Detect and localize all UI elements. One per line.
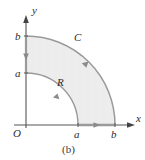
region-label-R: R <box>56 76 64 88</box>
y-axis-label: y <box>31 4 37 16</box>
origin-label: O <box>13 127 21 139</box>
figure-container: y x O b a a b R C (b) <box>0 0 145 160</box>
quarter-annulus-diagram: y x O b a a b R C (b) <box>0 0 145 160</box>
y-tick-label-b: b <box>15 30 21 42</box>
x-tick-label-b: b <box>111 128 117 140</box>
figure-caption: (b) <box>62 143 75 156</box>
x-axis-label: x <box>135 112 141 124</box>
x-tick-label-a: a <box>74 128 80 140</box>
y-tick-label-a: a <box>15 67 21 79</box>
curve-label-C: C <box>74 31 82 43</box>
shaded-region-R <box>0 0 145 160</box>
